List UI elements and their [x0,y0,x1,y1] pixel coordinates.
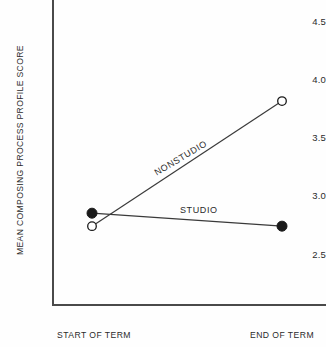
data-point-nonstudio-end [278,97,287,106]
data-point-nonstudio-start [88,222,97,231]
line-studio [92,213,282,226]
x-tick-label-start-of-term: START OF TERM [57,330,131,340]
data-point-studio-start [87,208,97,218]
data-point-studio-end [277,221,287,231]
x-tick-label-end-of-term: END OF TERM [250,330,314,340]
chart-figure: MEAN COMPOSING PROCESS PROFILE SCORE 4.5… [0,0,326,347]
series-label-studio: STUDIO [179,205,219,215]
